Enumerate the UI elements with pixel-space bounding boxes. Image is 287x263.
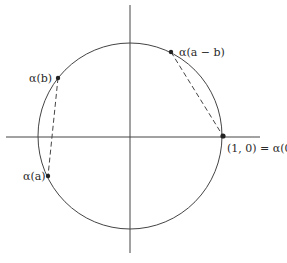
point-alpha-a [46, 174, 50, 178]
label-alpha-b: α(b) [29, 72, 52, 85]
unit-circle-diagram: α(b) α(a) α(a − b) (1, 0) = α(0) [0, 0, 287, 263]
chord-alpha-a-minus-b-to-alpha-0 [171, 52, 223, 136]
point-alpha-b [56, 76, 60, 80]
label-alpha-a: α(a) [23, 170, 46, 183]
chord-alpha-b-to-alpha-a [48, 78, 58, 176]
label-alpha-a-minus-b: α(a − b) [179, 46, 225, 59]
point-alpha-0 [220, 133, 225, 138]
point-alpha-a-minus-b [169, 50, 173, 54]
label-alpha-0: (1, 0) = α(0) [227, 142, 287, 155]
